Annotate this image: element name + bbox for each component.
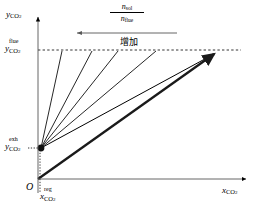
y-exh-tick-label: yexhexhCO2 xyxy=(5,142,18,151)
equilibrium-line xyxy=(38,54,214,179)
x-reg-tick-label: xregregCO2 xyxy=(40,192,52,201)
convergence-point-marker xyxy=(38,145,45,152)
origin-label: O xyxy=(26,182,33,192)
ratio-denominator: nflue xyxy=(103,13,151,23)
chart-canvas xyxy=(0,0,258,207)
ratio-numerator: nsol xyxy=(103,2,151,11)
y-axis-label: yCO2 xyxy=(6,10,22,20)
solvent-flue-ratio-annotation: nsol nflue xyxy=(103,2,151,23)
fan-line-4 xyxy=(41,51,156,148)
fan-line-5 xyxy=(41,54,214,148)
operating-line-fan xyxy=(41,51,214,148)
x-axis-label: xCO2 xyxy=(222,186,238,196)
co2-absorption-diagram: yCO2 xCO2 O yflueflueCO2 yexhexhCO2 xreg… xyxy=(0,0,258,207)
fan-line-3 xyxy=(41,51,118,148)
fan-line-2 xyxy=(41,51,92,148)
increase-direction-label: 增加 xyxy=(0,35,258,48)
